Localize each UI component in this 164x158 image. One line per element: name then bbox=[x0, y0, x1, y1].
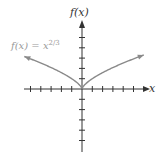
x-axis-label: x bbox=[149, 82, 155, 95]
y-axis-label: f(x) bbox=[70, 6, 89, 19]
function-curve bbox=[24, 55, 143, 88]
curve-right-arrow-icon bbox=[137, 55, 144, 60]
function-label-base: f(x) = x bbox=[11, 40, 49, 51]
y-axis-arrow-icon bbox=[79, 20, 85, 28]
function-label: f(x) = x2/3 bbox=[11, 39, 60, 51]
curve-left-arrow-icon bbox=[24, 56, 31, 61]
function-label-exponent: 2/3 bbox=[49, 39, 60, 47]
graph-plot bbox=[0, 0, 164, 158]
